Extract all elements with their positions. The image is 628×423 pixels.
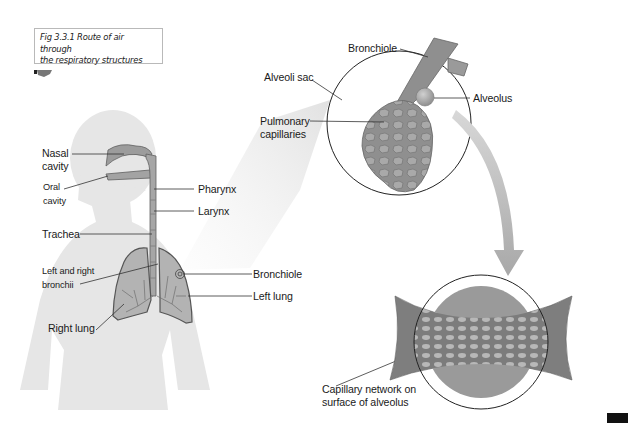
capillary-network	[390, 275, 572, 409]
label-nasal-cavity: Nasal cavity	[42, 147, 69, 173]
label-capillary-network: Capillary network on surface of alveolus	[322, 383, 416, 409]
caption-marker-icon	[34, 70, 52, 77]
label-right-lung: Right lung	[48, 322, 95, 335]
label-left-lung: Left lung	[253, 290, 293, 303]
label-pulmonary-capillaries: Pulmonary capillaries	[260, 115, 310, 141]
label-bronchii: Left and right bronchii	[42, 264, 94, 292]
alveolus-ball	[416, 88, 434, 106]
label-oral-cavity-line1: Oral	[43, 180, 66, 194]
caption-line-1: Fig 3.3.1 Route of air through	[40, 32, 157, 55]
label-pulmonary-capillaries-line2: capillaries	[260, 128, 310, 141]
label-oral-cavity-line2: cavity	[43, 194, 66, 208]
label-capillary-network-line1: Capillary network on	[322, 383, 416, 396]
label-oral-cavity: Oral cavity	[43, 180, 66, 208]
figure-caption: Fig 3.3.1 Route of air through the respi…	[34, 28, 163, 64]
label-alveoli-sac: Alveoli sac	[264, 71, 314, 84]
label-bronchiole-detail: Bronchiole	[348, 42, 397, 55]
label-bronchiole-body: Bronchiole	[253, 268, 302, 281]
label-alveolus: Alveolus	[473, 92, 512, 105]
caption-line-2: the respiratory structures	[40, 55, 157, 67]
respiratory-diagram: Fig 3.3.1 Route of air through the respi…	[0, 0, 628, 423]
page-corner-mark	[607, 413, 628, 423]
label-bronchii-line2: bronchii	[42, 278, 94, 292]
label-nasal-cavity-line1: Nasal	[42, 147, 69, 160]
label-bronchii-line1: Left and right	[42, 264, 94, 278]
label-pulmonary-capillaries-line1: Pulmonary	[260, 115, 310, 128]
label-nasal-cavity-line2: cavity	[42, 160, 69, 173]
label-trachea: Trachea	[42, 228, 80, 241]
label-larynx: Larynx	[198, 205, 229, 218]
label-capillary-network-line2: surface of alveolus	[322, 396, 416, 409]
label-pharynx: Pharynx	[198, 183, 236, 196]
